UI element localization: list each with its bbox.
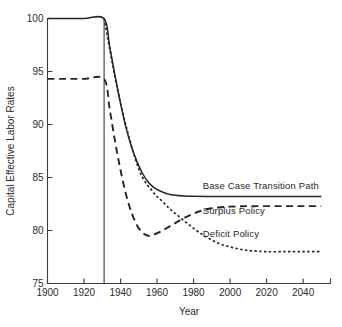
y-tick-label: 90 [32, 119, 44, 130]
x-tick-label: 2020 [255, 287, 278, 298]
y-tick-label: 95 [32, 66, 44, 77]
x-tick-label: 1980 [182, 287, 205, 298]
series-label-base-case: Base Case Transition Path [203, 180, 319, 191]
x-axis-tick-labels: 19001920194019601980200020202040 [36, 287, 314, 298]
x-tick-label: 2040 [292, 287, 315, 298]
series-line-base-case [48, 16, 322, 196]
y-axis-ticks [48, 19, 53, 284]
axes-group [48, 19, 331, 284]
series-line-surplus-policy [48, 77, 322, 236]
y-axis-title: Capital Effective Labor Rates [5, 86, 16, 215]
x-axis-title: Year [179, 306, 200, 317]
y-tick-label: 80 [32, 225, 44, 236]
axis-lines [48, 19, 331, 284]
x-tick-label: 1920 [73, 287, 96, 298]
x-tick-label: 1940 [109, 287, 132, 298]
y-tick-label: 75 [32, 278, 44, 289]
y-tick-label: 100 [27, 13, 44, 24]
x-tick-label: 2000 [219, 287, 242, 298]
x-axis-ticks [48, 279, 331, 284]
series-inline-labels: Base Case Transition Path Surplus Policy… [203, 180, 319, 239]
y-tick-label: 85 [32, 172, 44, 183]
series-line-deficit-policy [104, 19, 321, 252]
series-label-deficit-policy: Deficit Policy [203, 228, 260, 239]
x-tick-label: 1960 [146, 287, 169, 298]
chart-figure: 19001920194019601980200020202040 7580859… [0, 0, 342, 327]
series-group [48, 16, 322, 251]
y-axis-tick-labels: 7580859095100 [27, 13, 44, 289]
chart-canvas: 19001920194019601980200020202040 7580859… [0, 0, 342, 327]
series-label-surplus-policy: Surplus Policy [203, 205, 265, 216]
